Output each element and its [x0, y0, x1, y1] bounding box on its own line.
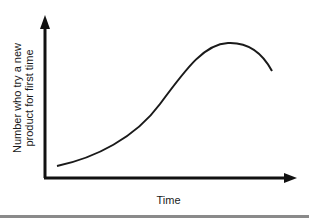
x-axis-label: Time	[0, 194, 309, 206]
y-axis-label: Number who try a new product for first t…	[11, 23, 35, 173]
trial-curve	[57, 43, 272, 166]
x-axis-arrow-icon	[284, 173, 297, 183]
chart-canvas	[0, 0, 309, 218]
bottom-rule	[0, 215, 309, 218]
y-axis-label-line-1: Number who try a new	[11, 23, 23, 173]
y-axis-label-line-2: product for first time	[23, 23, 35, 173]
y-axis-arrow-icon	[40, 15, 50, 29]
